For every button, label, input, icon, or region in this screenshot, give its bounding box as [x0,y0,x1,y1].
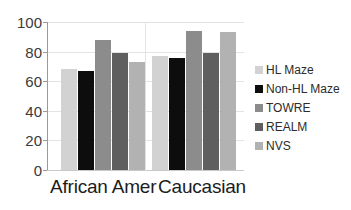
legend-label: REALM [266,121,307,133]
legend-label: HL Maze [266,64,314,76]
bar-non-hl-maze [78,71,94,170]
bar-hl-maze [152,56,168,170]
bar-non-hl-maze [169,58,185,170]
y-tick-label: 0 [2,163,42,178]
y-tick-label: 40 [2,103,42,118]
x-category-label: African Amer [50,176,156,198]
legend-swatch-icon [255,123,263,131]
legend-item-hl-maze[interactable]: HL Maze [255,61,351,78]
legend-swatch-icon [255,142,263,150]
legend-label: NVS [266,140,291,152]
legend-label: TOWRE [266,102,310,114]
chart-legend: HL MazeNon-HL MazeTOWREREALMNVS [255,61,351,156]
plot-area [47,22,243,170]
legend-swatch-icon [255,85,263,93]
bar-group-african-amer [61,22,146,170]
bar-chart-figure: 020406080100 African AmerCaucasian HL Ma… [0,0,351,210]
y-axis-tick-labels: 020406080100 [0,0,42,210]
legend-item-towre[interactable]: TOWRE [255,99,351,116]
bar-nvs [220,32,236,170]
legend-item-non-hl-maze[interactable]: Non-HL Maze [255,80,351,97]
bar-hl-maze [61,69,77,170]
legend-item-realm[interactable]: REALM [255,118,351,135]
legend-item-nvs[interactable]: NVS [255,137,351,154]
bar-towre [186,31,202,170]
y-tick-label: 80 [2,44,42,59]
y-tick-label: 100 [2,15,42,30]
y-tick-label: 20 [2,133,42,148]
bar-realm [203,53,219,170]
x-category-label: Caucasian [158,176,246,198]
bar-realm [112,53,128,170]
legend-swatch-icon [255,66,263,74]
legend-swatch-icon [255,104,263,112]
y-tick-label: 60 [2,74,42,89]
y-tick-mark [43,170,47,171]
bar-group-caucasian [152,22,237,170]
bar-towre [95,40,111,170]
legend-label: Non-HL Maze [266,83,340,95]
bar-nvs [129,62,145,170]
